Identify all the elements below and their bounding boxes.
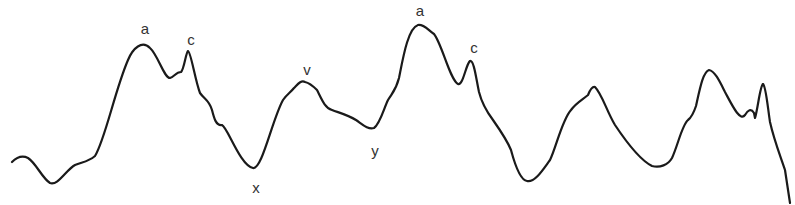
label-a-wave-1: a	[141, 21, 149, 36]
waveform-line	[12, 25, 790, 203]
label-c-wave-2: c	[470, 40, 478, 55]
jvp-waveform-diagram: a c x v y a c	[0, 0, 795, 205]
waveform-trace	[0, 0, 795, 205]
label-x-descent: x	[252, 180, 260, 195]
label-y-descent: y	[371, 143, 379, 158]
label-a-wave-2: a	[416, 3, 424, 18]
label-v-wave: v	[303, 62, 311, 77]
label-c-wave-1: c	[187, 32, 195, 47]
